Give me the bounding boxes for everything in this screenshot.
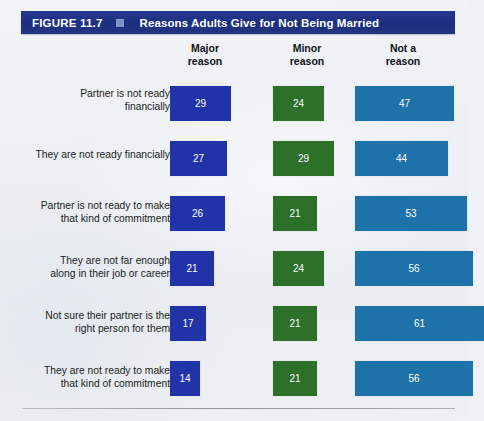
bar-not-a-reason: 47 — [355, 86, 454, 121]
bar-major-reason: 29 — [170, 86, 231, 121]
row-label-line1: Partner is not ready to make — [10, 200, 170, 213]
row-label-line2: that kind of commitment — [10, 213, 170, 226]
bar-minor-reason: 21 — [273, 196, 317, 231]
row-label: They are not far enough along in their j… — [10, 255, 170, 280]
column-header-line1: Major — [170, 42, 240, 55]
bar-not-a-reason: 56 — [355, 251, 473, 286]
row-label-line1: They are not ready financially — [10, 149, 170, 162]
bar-minor-reason: 24 — [273, 86, 324, 121]
row-label-line2: along in their job or career — [10, 268, 170, 281]
bar-major-reason: 14 — [170, 361, 200, 396]
row-label-line1: They are not far enough — [10, 255, 170, 268]
row-label: Partner is not ready financially — [10, 88, 170, 113]
bar-not-a-reason: 56 — [355, 361, 473, 396]
bar-major-reason: 27 — [170, 141, 227, 176]
bar-minor-reason: 21 — [273, 361, 317, 396]
row-label-line2: financially — [10, 101, 170, 114]
row-label-line2: right person for them — [10, 323, 170, 336]
column-header-line2: reason — [170, 55, 240, 68]
bar-minor-reason: 24 — [273, 251, 324, 286]
square-bullet-icon — [116, 19, 124, 27]
bar-not-a-reason: 61 — [355, 306, 484, 341]
bar-minor-reason: 21 — [273, 306, 317, 341]
column-header-line2: reason — [272, 55, 342, 68]
column-header-not-a-reason: Not a reason — [368, 42, 438, 67]
row-label: Partner is not ready to make that kind o… — [10, 200, 170, 225]
bar-major-reason: 21 — [170, 251, 214, 286]
column-header-minor-reason: Minor reason — [272, 42, 342, 67]
row-label-line1: They are not ready to make — [10, 365, 170, 378]
column-header-major-reason: Major reason — [170, 42, 240, 67]
bar-major-reason: 26 — [170, 196, 225, 231]
column-header-line1: Not a — [368, 42, 438, 55]
column-header-line1: Minor — [272, 42, 342, 55]
bar-not-a-reason: 53 — [355, 196, 467, 231]
bar-major-reason: 17 — [170, 306, 206, 341]
figure-number: FIGURE 11.7 — [32, 17, 103, 29]
figure-banner: FIGURE 11.7 Reasons Adults Give for Not … — [21, 11, 455, 34]
row-label-line2: that kind of commitment — [10, 378, 170, 391]
row-label: They are not ready to make that kind of … — [10, 365, 170, 390]
figure-title: Reasons Adults Give for Not Being Marrie… — [140, 17, 379, 29]
bar-not-a-reason: 44 — [355, 141, 448, 176]
column-header-line2: reason — [368, 55, 438, 68]
bar-minor-reason: 29 — [273, 141, 334, 176]
row-label: Not sure their partner is the right pers… — [10, 310, 170, 335]
bottom-divider — [22, 408, 455, 409]
row-label: They are not ready financially — [10, 149, 170, 162]
row-label-line1: Not sure their partner is the — [10, 310, 170, 323]
row-label-line1: Partner is not ready — [10, 88, 170, 101]
